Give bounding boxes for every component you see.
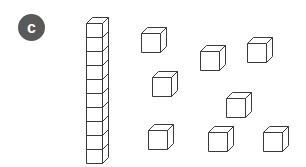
- unit-cube: [208, 126, 235, 153]
- blocks-figure: c: [0, 0, 306, 167]
- unit-cube: [141, 27, 168, 54]
- unit-cube-group: [0, 0, 306, 167]
- unit-cube: [200, 45, 227, 72]
- unit-cube: [226, 92, 253, 119]
- unit-cube: [263, 126, 290, 153]
- unit-cube: [247, 37, 274, 64]
- unit-cube: [152, 71, 179, 98]
- unit-cube: [148, 124, 175, 151]
